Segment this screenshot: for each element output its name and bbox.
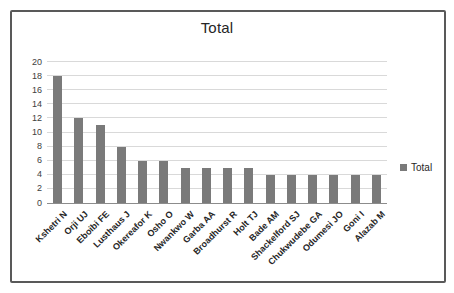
gridline	[47, 61, 387, 62]
y-tick-label: 4	[16, 170, 42, 179]
bar-garba-aa	[202, 168, 211, 203]
gridline	[47, 117, 387, 118]
bar-odumesi-jo	[329, 175, 338, 203]
bar-chukwudebe-ga	[308, 175, 317, 203]
y-tick-label: 8	[16, 142, 42, 151]
y-tick-label: 18	[16, 72, 42, 81]
y-tick-label: 0	[16, 199, 42, 208]
legend-swatch-icon	[400, 164, 407, 171]
bar-kshetri-n	[53, 76, 62, 203]
x-axis-line	[47, 203, 387, 204]
y-tick-label: 16	[16, 86, 42, 95]
gridline	[47, 103, 387, 104]
y-tick-label: 14	[16, 100, 42, 109]
gridline	[47, 75, 387, 76]
y-tick-label: 10	[16, 128, 42, 137]
chart-frame: Total 02468101214161820 Kshetri NOrji UJ…	[10, 10, 446, 283]
gridline	[47, 89, 387, 90]
bar-alazab-m	[372, 175, 381, 203]
bar-goni-i	[351, 175, 360, 203]
y-tick-label: 12	[16, 114, 42, 123]
bar-bade-am	[266, 175, 275, 203]
bar-lusthaus-j	[117, 147, 126, 203]
y-tick-label: 2	[16, 184, 42, 193]
bar-shackelford-sj	[287, 175, 296, 203]
chart-title: Total	[47, 19, 387, 36]
bar-eboibi-fe	[96, 125, 105, 203]
bar-holt-tj	[244, 168, 253, 203]
bar-broadhurst-r	[223, 168, 232, 203]
bar-osho-o	[159, 161, 168, 203]
y-tick-label: 20	[16, 58, 42, 67]
bar-nwankwo-w	[181, 168, 190, 203]
legend-label: Total	[411, 162, 432, 173]
y-tick-label: 6	[16, 156, 42, 165]
plot-area	[47, 62, 387, 203]
bar-orji-uj	[74, 118, 83, 203]
legend: Total	[400, 162, 432, 173]
bar-okereafor-k	[138, 161, 147, 203]
